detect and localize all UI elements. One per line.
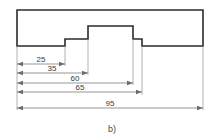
dimension-label-95: 95 — [106, 99, 115, 108]
dimension-label-65: 65 — [76, 83, 85, 92]
figure-container: 25 35 60 65 95 b) — [0, 0, 220, 140]
technical-drawing-canvas: 25 35 60 65 95 b) — [0, 0, 220, 140]
figure-caption: b) — [108, 124, 116, 134]
part-profile-group — [17, 10, 203, 46]
dimension-labels-group: 25 35 60 65 95 — [37, 55, 115, 108]
dimension-label-25: 25 — [37, 55, 46, 64]
dimension-label-35: 35 — [48, 64, 57, 73]
dimension-label-60: 60 — [71, 74, 80, 83]
part-outline-path — [17, 10, 203, 46]
